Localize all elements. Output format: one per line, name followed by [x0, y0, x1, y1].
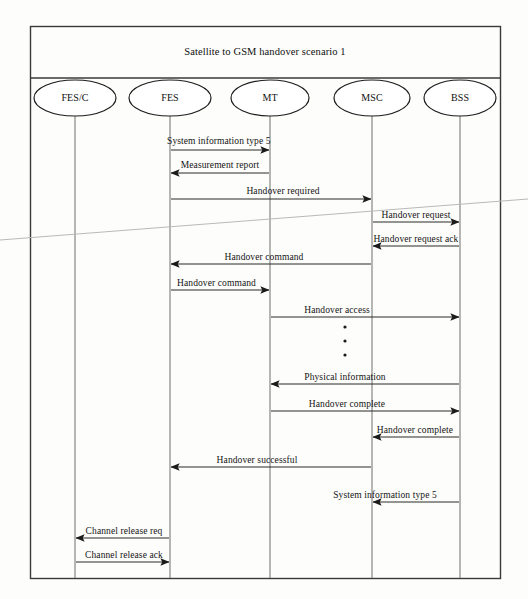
message-label-8: Handover access: [304, 305, 370, 316]
message-label-9: Physical information: [304, 372, 385, 383]
diagram-title: Satellite to GSM handover scenario 1: [184, 46, 345, 57]
message-label-2: Measurement report: [181, 160, 260, 171]
message-label-12: Handover successful: [217, 455, 298, 466]
message-label-5: Handover request ack: [374, 234, 459, 245]
message-label-6: Handover command: [225, 252, 304, 263]
actor-label-fes: FES: [161, 92, 179, 103]
sequence-diagram-svg: [0, 0, 528, 599]
message-label-4: Handover request: [382, 210, 451, 221]
diagram-canvas: Satellite to GSM handover scenario 1FES/…: [0, 0, 528, 599]
message-label-15: Channel release ack: [85, 550, 163, 561]
message-label-14: Channel release req: [86, 526, 163, 537]
message-label-3: Handover required: [246, 186, 319, 197]
message-label-1: System information type 5: [167, 136, 271, 147]
actor-label-mt: MT: [262, 92, 277, 103]
actor-label-msc: MSC: [361, 92, 382, 103]
message-label-11: Handover complete: [377, 425, 453, 436]
message-label-7: Handover command: [177, 278, 256, 289]
actor-label-bss: BSS: [451, 92, 469, 103]
actor-label-fesc: FES/C: [61, 92, 88, 103]
message-label-13: System information type 5: [333, 490, 437, 501]
message-label-10: Handover complete: [309, 399, 385, 410]
